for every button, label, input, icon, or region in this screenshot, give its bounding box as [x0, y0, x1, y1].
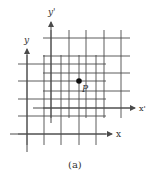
original-grid	[18, 55, 106, 145]
point-p-marker	[76, 78, 82, 84]
y-axis-label: y	[23, 35, 30, 45]
coordinate-diagram: P y x y' x' (a)	[0, 0, 157, 183]
figure-caption: (a)	[68, 159, 82, 170]
transformed-grid	[43, 30, 130, 118]
y-prime-axis-label: y'	[47, 7, 56, 17]
x-axis-label: x	[116, 129, 121, 139]
point-p-label: P	[81, 84, 89, 94]
x-prime-axis-label: x'	[139, 104, 146, 113]
